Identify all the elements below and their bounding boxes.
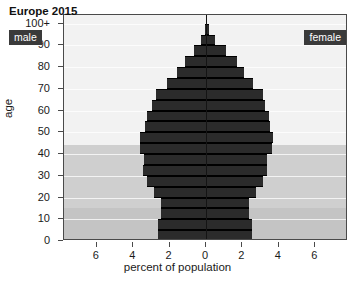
bar-female-15-19	[206, 198, 249, 209]
x-tick-mark-4	[241, 242, 242, 247]
y-tick-20: 20	[38, 191, 50, 203]
bar-female-5-9	[206, 219, 252, 230]
y-tick-10: 10	[38, 212, 50, 224]
bar-male-30-34	[143, 165, 206, 176]
center-axis-line	[206, 15, 207, 239]
y-tick-100: 100+	[25, 17, 50, 29]
y-tick-70: 70	[38, 82, 50, 94]
bar-row	[64, 15, 346, 24]
x-tick-mark-3	[205, 242, 206, 247]
bar-male-35-39	[144, 154, 206, 165]
bar-male-75-79	[177, 67, 206, 78]
x-tick-mark-2	[169, 242, 170, 247]
bar-male-15-19	[161, 198, 206, 209]
bar-male-50-54	[145, 121, 206, 132]
bar-female-70-74	[206, 78, 253, 89]
bar-female-20-24	[206, 187, 256, 198]
x-tick-5: 4	[275, 249, 281, 261]
bar-row	[64, 56, 346, 67]
bar-female-85-89	[206, 45, 226, 56]
bar-male-70-74	[167, 78, 206, 89]
bars-layer	[64, 15, 346, 239]
bar-female-55-59	[206, 111, 269, 122]
plot-area	[63, 14, 347, 240]
bar-row	[64, 154, 346, 165]
legend-badge-female: female	[304, 30, 346, 45]
bar-male-20-24	[154, 187, 206, 198]
bar-female-50-54	[206, 121, 270, 132]
bar-female-40-44	[206, 143, 272, 154]
x-axis-title: percent of population	[0, 261, 355, 273]
bar-female-80-84	[206, 56, 237, 67]
bar-row	[64, 208, 346, 219]
bar-male-55-59	[147, 111, 206, 122]
bar-row	[64, 132, 346, 143]
bar-row	[64, 165, 346, 176]
bar-female-0-4	[206, 230, 252, 240]
bar-female-90-94	[206, 35, 215, 46]
y-tick-mark-0	[58, 240, 63, 241]
x-tick-6: 6	[311, 249, 317, 261]
bar-male-45-49	[140, 132, 206, 143]
bar-male-25-29	[147, 176, 206, 187]
x-tick-4: 2	[238, 249, 244, 261]
bar-male-85-89	[194, 45, 206, 56]
population-pyramid-chart: age 0102030405060708090100+ Europe 2015 …	[0, 0, 355, 281]
bar-male-40-44	[140, 143, 206, 154]
x-tick-mark-1	[132, 242, 133, 247]
bar-female-60-64	[206, 100, 265, 111]
x-tick-3: 0	[202, 249, 208, 261]
bar-row	[64, 121, 346, 132]
x-tick-mark-6	[314, 242, 315, 247]
bar-female-25-29	[206, 176, 263, 187]
bar-female-35-39	[206, 154, 267, 165]
bar-female-30-34	[206, 165, 267, 176]
bar-female-75-79	[206, 67, 244, 78]
x-tick-mark-0	[96, 242, 97, 247]
y-tick-60: 60	[38, 104, 50, 116]
y-tick-40: 40	[38, 147, 50, 159]
bar-male-5-9	[158, 219, 206, 230]
bar-row	[64, 176, 346, 187]
x-axis-tick-labels: 6420246	[0, 242, 355, 262]
bar-row	[64, 230, 346, 240]
bar-male-10-14	[161, 208, 206, 219]
x-tick-2: 2	[166, 249, 172, 261]
bar-row	[64, 111, 346, 122]
bar-female-45-49	[206, 132, 273, 143]
bar-row	[64, 143, 346, 154]
y-tick-80: 80	[38, 60, 50, 72]
bar-row	[64, 67, 346, 78]
y-tick-30: 30	[38, 169, 50, 181]
bar-female-65-69	[206, 89, 263, 100]
bar-female-10-14	[206, 208, 249, 219]
bar-row	[64, 187, 346, 198]
bar-male-60-64	[152, 100, 206, 111]
x-tick-mark-5	[278, 242, 279, 247]
bar-male-65-69	[156, 89, 206, 100]
bar-row	[64, 100, 346, 111]
bar-row	[64, 78, 346, 89]
bar-male-80-84	[185, 56, 206, 67]
chart-title: Europe 2015	[9, 5, 77, 17]
bar-row	[64, 219, 346, 230]
x-tick-1: 4	[129, 249, 135, 261]
bar-row	[64, 198, 346, 209]
x-tick-0: 6	[93, 249, 99, 261]
bar-male-0-4	[158, 230, 206, 240]
bar-row	[64, 89, 346, 100]
legend-badge-male: male	[9, 30, 42, 45]
bar-row	[64, 45, 346, 56]
y-tick-50: 50	[38, 125, 50, 137]
